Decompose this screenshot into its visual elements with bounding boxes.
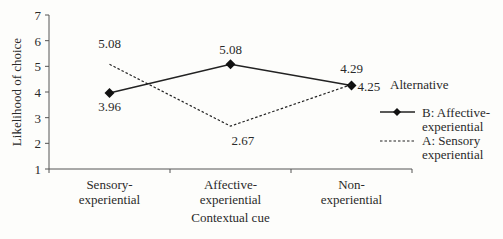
legend-title: Alternative <box>390 77 449 92</box>
x-tick-label: experiential <box>321 192 383 207</box>
x-tick-label: experiential <box>79 192 141 207</box>
y-tick-label: 6 <box>35 34 42 49</box>
y-tick-label: 2 <box>35 136 42 151</box>
series-line-a <box>110 64 352 126</box>
diamond-marker <box>105 88 115 98</box>
x-axis-title: Contextual cue <box>191 210 270 225</box>
series-lines <box>105 59 357 126</box>
legend: AlternativeB: Affective-experientialA: S… <box>380 77 490 162</box>
data-label: 2.67 <box>232 133 255 148</box>
legend-label-a: experiential <box>422 147 484 162</box>
diamond-marker <box>347 81 357 91</box>
x-tick-label: experiential <box>200 192 262 207</box>
data-label: 5.08 <box>219 42 242 57</box>
legend-label-b: B: Affective- <box>422 105 490 120</box>
y-tick-label: 7 <box>35 8 42 23</box>
data-label: 5.08 <box>98 36 121 51</box>
chart: 1234567Sensory-experientialAffective-exp… <box>0 0 503 239</box>
x-tick-label: Affective- <box>204 177 257 192</box>
data-label: 3.96 <box>98 99 121 114</box>
legend-label-a: A: Sensory <box>422 133 481 148</box>
y-tick-label: 1 <box>35 162 42 177</box>
data-label: 4.25 <box>358 79 381 94</box>
data-label: 4.29 <box>340 61 363 76</box>
data-labels: 3.965.084.255.082.674.29 <box>98 36 380 148</box>
x-tick-label: Non- <box>338 177 365 192</box>
y-tick-label: 3 <box>35 111 42 126</box>
y-tick-label: 5 <box>35 59 42 74</box>
diamond-marker <box>393 108 401 116</box>
legend-label-b: experiential <box>422 119 484 134</box>
y-axis-title: Likelihood of choice <box>9 38 24 147</box>
y-tick-label: 4 <box>35 85 42 100</box>
diamond-marker <box>226 59 236 69</box>
x-tick-label: Sensory- <box>86 177 132 192</box>
